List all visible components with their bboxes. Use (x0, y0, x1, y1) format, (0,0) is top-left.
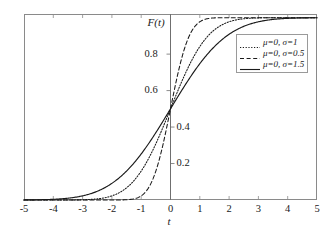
legend-item: μ=0, σ=0.5 (240, 48, 304, 59)
legend-line-sample-solid (240, 60, 260, 69)
x-tick-label: -1 (129, 204, 153, 215)
legend-box: μ=0, σ=1μ=0, σ=0.5μ=0, σ=1.5 (236, 34, 308, 73)
y-tick-label: 0.6 (145, 85, 158, 96)
x-tick-label: -4 (41, 204, 65, 215)
legend-item-label: μ=0, σ=0.5 (263, 49, 304, 58)
legend-line-sample-dotted (240, 38, 260, 47)
y-axis-label: F(t) (148, 17, 165, 28)
x-tick-label: -2 (100, 204, 124, 215)
x-tick-label: 4 (276, 204, 300, 215)
legend-line-sample-dashed (240, 49, 260, 58)
legend-item-label: μ=0, σ=1.5 (263, 60, 304, 69)
x-tick-label: 0 (159, 204, 183, 215)
x-tick-label: 1 (188, 204, 212, 215)
y-tick-label: 0.8 (145, 49, 158, 60)
x-tick-label: 2 (217, 204, 241, 215)
legend-item-label: μ=0, σ=1 (263, 38, 298, 47)
x-axis-label: t (168, 216, 171, 227)
y-tick-label: 0.4 (177, 122, 190, 133)
legend-item: μ=0, σ=1.5 (240, 59, 304, 70)
x-tick-label: -5 (12, 204, 36, 215)
x-tick-label: 5 (305, 204, 329, 215)
y-tick-label: 0.2 (177, 158, 190, 169)
x-tick-label: -3 (71, 204, 95, 215)
figure-normal-cdf-chart: -5-4-3-2-1012345 0.20.40.60.8 t F(t) μ=0… (0, 0, 336, 235)
x-tick-label: 3 (246, 204, 270, 215)
legend-item: μ=0, σ=1 (240, 37, 304, 48)
